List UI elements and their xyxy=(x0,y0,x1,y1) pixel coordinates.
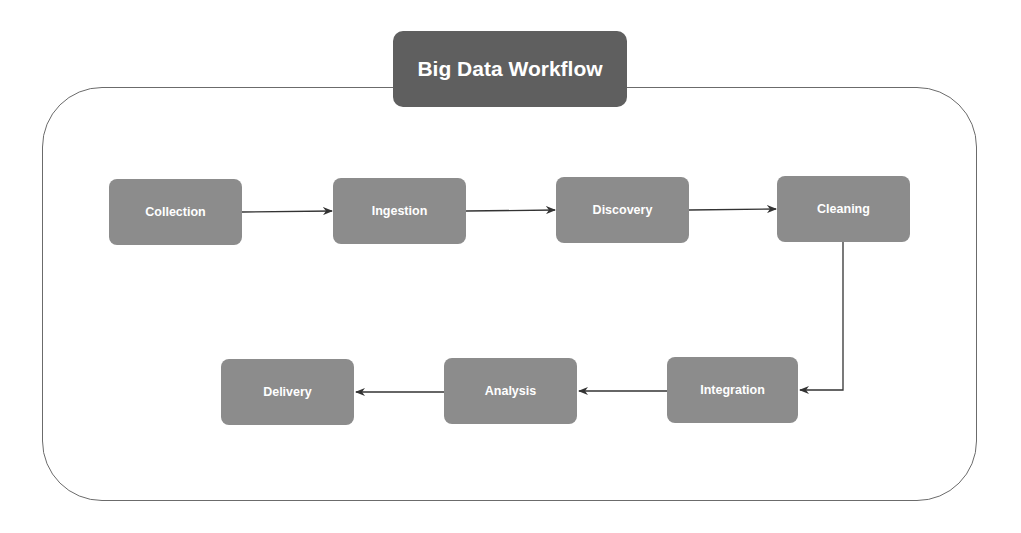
node-cleaning[interactable]: Cleaning xyxy=(777,176,910,242)
node-ingestion[interactable]: Ingestion xyxy=(333,178,466,244)
node-discovery[interactable]: Discovery xyxy=(556,177,689,243)
node-analysis[interactable]: Analysis xyxy=(444,358,577,424)
edge-collection-ingestion xyxy=(242,211,332,212)
node-delivery[interactable]: Delivery xyxy=(221,359,354,425)
node-collection[interactable]: Collection xyxy=(109,179,242,245)
edge-discovery-cleaning xyxy=(689,209,776,210)
edge-cleaning-integration xyxy=(800,242,843,390)
node-integration[interactable]: Integration xyxy=(667,357,798,423)
edge-ingestion-discovery xyxy=(466,210,555,211)
diagram-title: Big Data Workflow xyxy=(393,31,627,107)
